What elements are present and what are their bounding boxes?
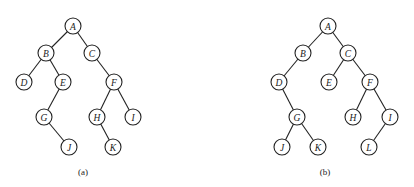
node-label: A [69,22,76,32]
node-a: A [65,18,81,34]
node-b: B [38,45,54,61]
node-label: D [275,78,283,88]
tree-a-nodes: ABCDEFGHIJK [16,18,141,155]
node-l: L [361,139,377,155]
node-label: C [89,49,96,59]
node-e: E [321,74,337,90]
node-label: C [345,49,352,59]
node-k: K [310,139,326,155]
node-label: H [93,113,102,123]
node-label: F [110,78,117,88]
tree-b-nodes: ABCDEFGHIJKL [271,18,398,155]
tree-b-caption: (b) [320,167,331,177]
node-d: D [271,74,287,90]
node-i: I [382,109,398,125]
node-d: D [16,74,32,90]
node-label: A [324,22,331,32]
node-c: C [340,45,356,61]
node-label: L [365,143,371,153]
node-c: C [84,45,100,61]
node-g: G [36,109,52,125]
node-label: K [109,143,117,153]
node-k: K [105,139,121,155]
node-label: B [300,49,306,59]
node-b: B [295,45,311,61]
node-label: E [325,78,332,88]
node-j: J [274,139,290,155]
node-i: I [125,109,141,125]
node-label: E [59,78,66,88]
tree-a-caption: (a) [78,167,88,177]
node-f: F [106,74,122,90]
node-e: E [55,74,71,90]
tree-a: ABCDEFGHIJK (a) [16,18,141,177]
node-f: F [362,74,378,90]
node-h: H [89,109,105,125]
node-h: H [345,109,361,125]
binary-trees-figure: ABCDEFGHIJK (a) ABCDEFGHIJKL (b) [0,0,414,187]
node-j: J [61,139,77,155]
node-label: H [349,113,358,123]
node-label: G [294,113,301,123]
node-a: A [320,18,336,34]
tree-b: ABCDEFGHIJKL (b) [271,18,398,177]
node-g: G [289,109,305,125]
node-label: B [43,49,49,59]
node-label: G [41,113,48,123]
node-label: D [20,78,28,88]
node-label: K [314,143,322,153]
node-label: F [366,78,373,88]
